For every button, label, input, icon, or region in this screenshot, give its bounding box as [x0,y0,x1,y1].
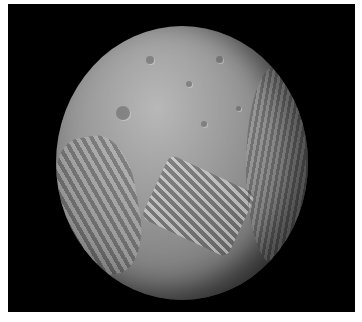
crater [186,81,192,87]
moon-body [56,26,308,300]
crater [216,56,223,63]
grooved-terrain-left [56,130,150,282]
crater [146,56,154,64]
crater [236,106,241,111]
crater [201,121,207,127]
crater [116,106,130,120]
grooved-terrain-right [246,66,306,266]
bright-chevron-terrain [141,154,257,258]
space-background [8,4,355,312]
